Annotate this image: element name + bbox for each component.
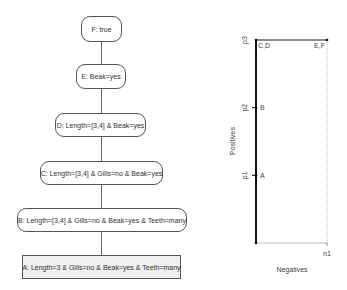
x-tick-n1: n1 [323,250,331,257]
point-label-c-d: C,D [258,42,270,49]
point-e-f [326,39,329,42]
point-label-e-f: E,F [314,42,325,49]
y-axis-label: Positives [229,126,236,155]
point-c-d [255,39,258,42]
origin-point [255,242,258,245]
y-tick-p2: p2 [241,104,249,112]
y-tick-p3: p3 [241,36,249,44]
point-label-a: A [260,172,265,179]
y-tick-p1: p1 [241,171,249,179]
point-label-b: B [260,104,265,111]
coverage-plot: ABC,DE,F Negatives Positives n1 p1 p2 p3 [0,0,347,290]
x-axis-label: Negatives [276,266,308,274]
